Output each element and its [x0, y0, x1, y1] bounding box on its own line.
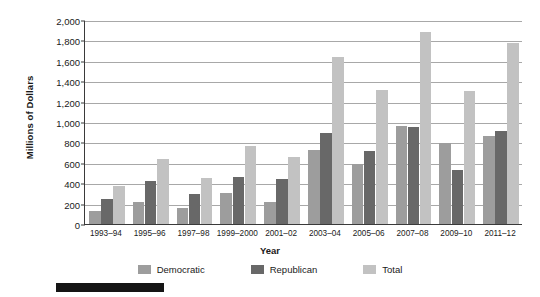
- x-axis-tick-label: 2001–02: [265, 229, 297, 238]
- x-axis-tick-label: 2007–08: [397, 229, 429, 238]
- y-axis-tick-label: 200: [64, 199, 80, 210]
- bar-republican: [408, 127, 420, 224]
- bar-republican: [364, 151, 376, 224]
- x-axis-tick-label: 2009–10: [440, 229, 472, 238]
- bar-total: [288, 157, 300, 224]
- bar-democratic: [89, 211, 101, 224]
- x-axis-tick-label: 1993–94: [90, 229, 122, 238]
- bar-total: [157, 159, 169, 224]
- bar-democratic: [177, 208, 189, 224]
- y-axis-tick-label: 1,200: [56, 97, 80, 108]
- redaction-bar: [56, 283, 164, 292]
- bar-total: [332, 57, 344, 224]
- legend-swatch-icon: [138, 265, 151, 274]
- legend-item: Republican: [251, 264, 318, 275]
- y-axis-title: Millions of Dollars: [24, 43, 35, 193]
- y-axis-tick-label: 600: [64, 158, 80, 169]
- y-axis-tick-label: 1,400: [56, 77, 80, 88]
- y-axis-tick-label: 1,800: [56, 36, 80, 47]
- bar-total: [376, 90, 388, 224]
- bar-republican: [320, 133, 332, 224]
- x-axis-tick-label: 1999–2000: [217, 229, 258, 238]
- x-axis-tick-label: 1997–98: [178, 229, 210, 238]
- bar-group: [173, 21, 217, 224]
- x-axis-tick-label: 2011–12: [484, 229, 515, 238]
- x-axis-title: Year: [0, 245, 540, 256]
- y-axis-tick-label: 2,000: [56, 16, 80, 27]
- bar-groups-layer: [85, 21, 522, 224]
- y-axis-tick-label: 1,000: [56, 118, 80, 129]
- bar-democratic: [308, 150, 320, 224]
- bar-republican: [276, 179, 288, 224]
- bar-republican: [452, 170, 464, 224]
- x-axis-tick-label: 2003–04: [309, 229, 341, 238]
- legend-label: Republican: [270, 264, 318, 275]
- bar-democratic: [352, 164, 364, 224]
- bar-republican: [101, 199, 113, 224]
- chart-legend: DemocraticRepublicanTotal: [0, 264, 540, 275]
- bar-group: [479, 21, 523, 224]
- legend-swatch-icon: [363, 265, 376, 274]
- bar-group: [392, 21, 436, 224]
- bar-group: [85, 21, 129, 224]
- bar-group: [216, 21, 260, 224]
- bar-total: [464, 91, 476, 224]
- bar-republican: [189, 194, 201, 224]
- bar-total: [113, 186, 125, 224]
- bar-republican: [495, 131, 507, 224]
- y-axis-tick-label: 800: [64, 138, 80, 149]
- plot-area: 02004006008001,0001,2001,4001,6001,8002,…: [84, 21, 522, 225]
- legend-item: Democratic: [138, 264, 205, 275]
- bar-group: [435, 21, 479, 224]
- bar-democratic: [220, 193, 232, 224]
- bar-total: [201, 178, 213, 224]
- legend-swatch-icon: [251, 265, 264, 274]
- bar-republican: [233, 177, 245, 224]
- bar-total: [245, 146, 257, 224]
- bar-group: [348, 21, 392, 224]
- bar-democratic: [396, 126, 408, 224]
- y-axis-tick-mark: [81, 225, 85, 226]
- bar-democratic: [133, 202, 145, 224]
- legend-label: Total: [382, 264, 402, 275]
- bar-total: [420, 32, 432, 224]
- y-axis-tick-label: 1,600: [56, 56, 80, 67]
- bar-democratic: [264, 202, 276, 224]
- y-axis-tick-label: 400: [64, 179, 80, 190]
- y-axis-tick-label: 0: [75, 220, 80, 231]
- bar-group: [260, 21, 304, 224]
- legend-item: Total: [363, 264, 402, 275]
- bar-republican: [145, 181, 157, 224]
- bar-total: [507, 43, 519, 224]
- bar-group: [129, 21, 173, 224]
- bar-chart-figure: Millions of Dollars 02004006008001,0001,…: [0, 0, 540, 297]
- bar-democratic: [439, 143, 451, 224]
- x-axis-tick-label: 1995–96: [134, 229, 166, 238]
- bar-democratic: [483, 136, 495, 224]
- legend-label: Democratic: [157, 264, 205, 275]
- bar-group: [304, 21, 348, 224]
- x-axis-tick-label: 2005–06: [353, 229, 385, 238]
